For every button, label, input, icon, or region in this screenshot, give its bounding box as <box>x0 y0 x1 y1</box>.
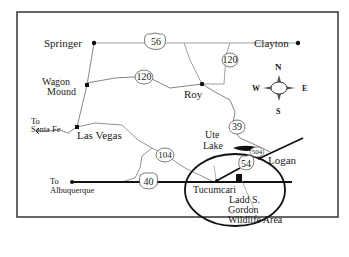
label-lake: Lake <box>203 141 223 151</box>
label-roy: Roy <box>184 89 202 100</box>
compass-e: E <box>302 84 307 94</box>
route-104-label: 104 <box>155 150 175 160</box>
route-40-label: 40 <box>139 177 158 187</box>
route-504-label: 504 <box>249 148 265 156</box>
label-clayton: Clayton <box>254 38 289 49</box>
compass-w: W <box>252 84 260 94</box>
roy-dot <box>200 82 204 86</box>
route-56-label: 56 <box>146 37 166 47</box>
label-to-albuquerque-2: Albuquerque <box>50 186 94 195</box>
route-120-north-label: 120 <box>220 55 240 65</box>
wildlife-area-marker <box>236 174 242 181</box>
route-120-label: 120 <box>134 72 154 82</box>
tucumcari-dot <box>215 179 219 183</box>
label-las-vegas: Las Vegas <box>77 130 122 141</box>
wagon-mound-dot <box>85 83 89 87</box>
route-39-label: 39 <box>227 122 247 132</box>
route-54-label: 54 <box>237 159 255 169</box>
clayton-dot <box>296 41 300 45</box>
label-springer: Springer <box>44 38 82 49</box>
compass-s: S <box>276 107 280 117</box>
label-mound: Mound <box>47 87 76 97</box>
springer-dot <box>92 41 96 45</box>
compass-n: N <box>275 62 282 72</box>
label-wildlife-area: Wildlife Area <box>228 215 282 225</box>
label-ute: Ute <box>205 130 219 140</box>
label-to-santa-fe-2: Santa Fe <box>31 125 61 134</box>
label-logan: Logan <box>268 155 296 166</box>
albuquerque-dot <box>70 180 74 184</box>
